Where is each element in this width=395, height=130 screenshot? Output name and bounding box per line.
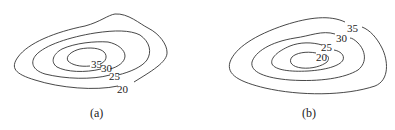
contour-label-30: 30 — [336, 32, 348, 44]
contour-line-30 — [252, 33, 365, 81]
contour-label-25: 25 — [109, 70, 121, 82]
contour-line-30 — [53, 42, 125, 72]
panel-b-caption: (b) — [302, 106, 316, 121]
panel-a-caption: (a) — [90, 106, 103, 121]
contour-label-35: 35 — [347, 22, 359, 34]
contour-line-25 — [272, 43, 344, 71]
panel-b-contour-map: 35 30 25 20 — [229, 18, 386, 94]
contour-figure: 35 30 25 20 35 30 25 20 — [0, 0, 395, 130]
contour-line-20 — [14, 14, 167, 89]
contour-label-20: 20 — [316, 51, 328, 63]
panel-a-contour-map: 35 30 25 20 — [14, 14, 167, 95]
contour-line-35 — [229, 18, 386, 94]
contour-label-20: 20 — [117, 83, 129, 95]
